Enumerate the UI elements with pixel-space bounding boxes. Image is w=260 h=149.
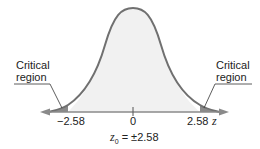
left-leader-line — [14, 84, 62, 108]
equation-subscript: 0 — [115, 138, 119, 145]
equation-value: = ±2.58 — [122, 131, 159, 143]
tick-center: 0 — [130, 115, 136, 127]
right-critical-label: Critical region — [216, 59, 250, 83]
tick-left: −2.58 — [57, 115, 85, 127]
critical-value-equation: z0 = ±2.58 — [110, 130, 159, 145]
axis-arrow-left — [40, 109, 50, 116]
tick-right: 2.58 — [187, 115, 208, 127]
right-label-line-2: region — [216, 71, 250, 83]
right-leader-line — [204, 84, 252, 108]
left-label-line-2: region — [16, 71, 50, 83]
right-label-line-1: Critical — [216, 59, 250, 71]
axis-arrow-right — [219, 109, 229, 116]
acceptance-region — [68, 8, 200, 112]
axis-variable-label: z — [212, 114, 217, 129]
left-label-line-1: Critical — [16, 59, 50, 71]
left-critical-label: Critical region — [16, 59, 50, 83]
